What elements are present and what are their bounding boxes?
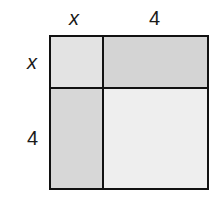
side-label-4: 4 xyxy=(27,128,38,148)
top-label-4: 4 xyxy=(149,8,160,28)
region-4-by-4 xyxy=(103,88,207,188)
region-4-by-x-top xyxy=(103,37,207,88)
region-x-by-x xyxy=(51,37,103,88)
region-x-by-4-left xyxy=(51,88,103,188)
vertical-divider xyxy=(102,37,104,188)
area-model-square xyxy=(49,35,209,190)
horizontal-divider xyxy=(51,87,207,89)
side-label-x: x xyxy=(27,52,37,72)
top-label-x: x xyxy=(69,8,79,28)
